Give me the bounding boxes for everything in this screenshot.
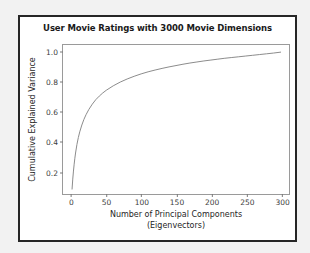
x-tick-label: 0	[69, 198, 74, 207]
y-tick-mark	[60, 142, 63, 143]
x-tick-label: 50	[102, 198, 112, 207]
series-line-cumulative-variance	[72, 52, 281, 189]
y-tick-mark	[60, 51, 63, 52]
x-axis-label: Number of Principal Components (Eigenvec…	[62, 209, 290, 231]
x-tick-label: 300	[275, 198, 289, 207]
chart-title: User Movie Ratings with 3000 Movie Dimen…	[20, 23, 295, 33]
y-tick-label: 1.0	[46, 47, 60, 56]
y-axis-label-text: Cumulative Explained Variance	[28, 57, 37, 182]
x-tick-label: 100	[135, 198, 149, 207]
x-tick-label: 150	[170, 198, 184, 207]
line-chart-svg	[63, 45, 289, 194]
x-tick-label: 250	[240, 198, 254, 207]
x-axis-label-line2: (Eigenvectors)	[62, 220, 290, 231]
y-tick-label: 0.6	[46, 108, 60, 117]
x-tick-mark	[282, 194, 283, 197]
x-tick: 150	[170, 194, 184, 207]
x-tick-mark	[176, 194, 177, 197]
x-tick-label: 200	[205, 198, 219, 207]
x-tick: 100	[135, 194, 149, 207]
y-tick-label: 0.8	[46, 77, 60, 86]
figure-frame: User Movie Ratings with 3000 Movie Dimen…	[18, 15, 297, 242]
x-tick: 200	[205, 194, 219, 207]
x-tick-mark	[141, 194, 142, 197]
y-tick: 0.2	[46, 168, 63, 177]
plot-area: 0.20.40.60.81.0050100150200250300	[62, 44, 290, 195]
y-tick-mark	[60, 81, 63, 82]
y-tick-mark	[60, 172, 63, 173]
y-tick: 0.8	[46, 77, 63, 86]
x-tick: 250	[240, 194, 254, 207]
y-tick-label: 0.4	[46, 138, 60, 147]
x-tick: 0	[69, 194, 74, 207]
y-axis-label: Cumulative Explained Variance	[26, 44, 38, 195]
x-tick-mark	[106, 194, 107, 197]
x-tick: 50	[102, 194, 112, 207]
x-axis-label-line1: Number of Principal Components	[62, 209, 290, 220]
x-tick-mark	[247, 194, 248, 197]
y-tick-mark	[60, 112, 63, 113]
y-tick: 0.4	[46, 138, 63, 147]
x-tick-mark	[71, 194, 72, 197]
x-tick-mark	[212, 194, 213, 197]
y-tick: 0.6	[46, 108, 63, 117]
y-tick: 1.0	[46, 47, 63, 56]
x-tick: 300	[275, 194, 289, 207]
y-tick-label: 0.2	[46, 168, 60, 177]
